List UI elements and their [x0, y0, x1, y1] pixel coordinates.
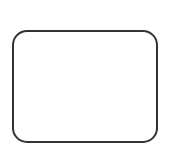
rounded-rectangle-shape: [12, 30, 158, 143]
